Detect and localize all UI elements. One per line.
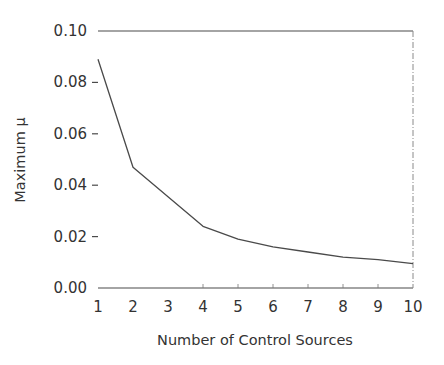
plot-frame [98,31,413,288]
y-tick-label: 0.06 [54,125,87,143]
y-tick-label: 0.10 [54,22,87,40]
data-series [98,59,413,263]
x-axis-title: Number of Control Sources [157,332,353,348]
x-tick-label: 3 [163,298,173,316]
y-axis: 0.000.020.040.060.080.10 [54,22,98,297]
x-tick-label: 5 [233,298,243,316]
y-tick-label: 0.02 [54,228,87,246]
x-tick-label: 7 [303,298,313,316]
series-line [98,59,413,263]
x-axis: 12345678910 [93,284,422,316]
x-tick-label: 9 [373,298,383,316]
y-tick-label: 0.08 [54,73,87,91]
line-chart: 0.000.020.040.060.080.10 12345678910 Num… [0,0,444,365]
x-tick-label: 1 [93,298,103,316]
x-tick-label: 8 [338,298,348,316]
x-tick-label: 6 [268,298,278,316]
y-tick-label: 0.04 [54,176,87,194]
x-tick-label: 10 [403,298,422,316]
y-axis-title: Maximum μ [12,117,28,202]
y-tick-label: 0.00 [54,279,87,297]
x-tick-label: 4 [198,298,208,316]
x-tick-label: 2 [128,298,138,316]
